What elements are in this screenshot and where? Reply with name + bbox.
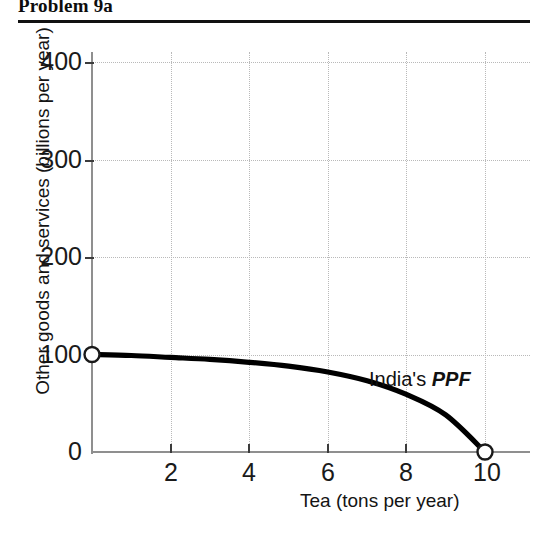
y-tick-label-0: 0 bbox=[0, 437, 82, 466]
gridline-y-100 bbox=[92, 355, 530, 356]
x-tick-label-4: 4 bbox=[242, 458, 256, 487]
gridline-y-200 bbox=[92, 257, 530, 258]
x-tick-label-8: 8 bbox=[399, 458, 413, 487]
curve-annotation: India's PPF bbox=[369, 368, 471, 391]
x-tick-8 bbox=[405, 444, 407, 453]
figure-panel: Problem 9a 400 300 200 100 0 2 4 6 8 10 … bbox=[0, 0, 546, 543]
gridline-x-2 bbox=[171, 52, 172, 452]
gridline-x-6 bbox=[328, 52, 329, 452]
x-axis-title: Tea (tons per year) bbox=[300, 490, 459, 512]
x-tick-4 bbox=[248, 444, 250, 453]
y-tick-200 bbox=[85, 257, 94, 259]
y-tick-400 bbox=[85, 62, 94, 64]
y-axis-line bbox=[91, 52, 93, 454]
gridline-y-300 bbox=[92, 160, 530, 161]
curve-annotation-text: India's bbox=[369, 368, 432, 390]
x-tick-label-2: 2 bbox=[164, 458, 178, 487]
x-tick-label-10: 10 bbox=[473, 458, 501, 487]
y-axis-title: Other goods and services (billions per y… bbox=[32, 1, 54, 421]
gridline-x-8 bbox=[406, 52, 407, 452]
x-tick-6 bbox=[327, 444, 329, 453]
gridline-x-4 bbox=[249, 52, 250, 452]
y-tick-300 bbox=[85, 160, 94, 162]
curve-annotation-emphasis: PPF bbox=[432, 368, 471, 390]
title-divider bbox=[18, 20, 530, 23]
x-axis-line bbox=[91, 451, 530, 453]
gridline-y-400 bbox=[92, 62, 530, 63]
y-tick-100 bbox=[85, 355, 94, 357]
x-tick-2 bbox=[170, 444, 172, 453]
x-tick-label-6: 6 bbox=[321, 458, 335, 487]
gridline-x-10 bbox=[485, 52, 486, 452]
